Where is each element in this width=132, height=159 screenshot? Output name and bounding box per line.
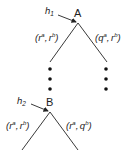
edge-b-left xyxy=(22,112,50,150)
edge-b-right-label: (ra,qb) xyxy=(66,120,92,131)
edge-a-left-label: (ra,rb) xyxy=(35,32,59,43)
ellipsis-right xyxy=(104,67,108,91)
edge-a-left xyxy=(50,23,78,62)
node-a-label: A xyxy=(74,7,82,19)
node-b-label: B xyxy=(46,96,53,108)
edge-a-right-label: (qa,rb) xyxy=(95,32,121,43)
info-set-h2-label: h2 xyxy=(17,95,26,107)
ellipsis-left xyxy=(48,67,52,91)
edge-b-right xyxy=(50,112,78,150)
edge-b-left-label: (ra,rb) xyxy=(6,120,30,131)
game-tree-diagram: A h1 (ra,rb) (qa,rb) B h2 (ra,rb) (ra,qb… xyxy=(0,0,132,159)
info-set-h1-label: h1 xyxy=(45,5,54,17)
